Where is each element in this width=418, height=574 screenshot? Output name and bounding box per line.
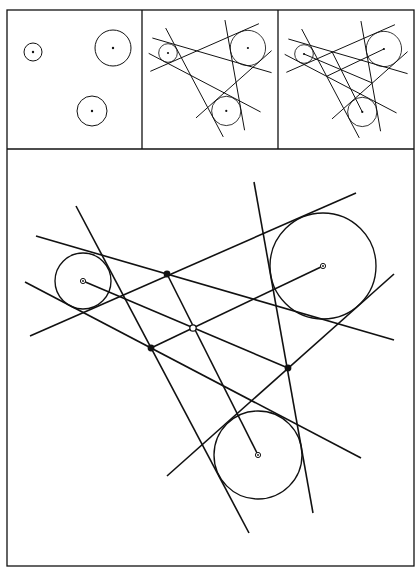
center-dot (303, 53, 305, 55)
point-a (164, 271, 171, 278)
center-dot (32, 51, 34, 53)
tangent-line-3 (285, 54, 397, 113)
point-c (285, 365, 292, 372)
panel-tangents (149, 20, 272, 137)
tangent-line-3 (25, 282, 361, 458)
tangent-line-4 (76, 206, 249, 533)
center-dot (167, 52, 169, 54)
tangent-line-2 (152, 38, 271, 73)
center-dot (257, 454, 259, 456)
center-dot (225, 110, 227, 112)
center-dot (322, 265, 324, 267)
open-point (190, 325, 196, 331)
center-dot (82, 280, 84, 282)
point-b (148, 345, 155, 352)
center-dot (91, 110, 93, 112)
tangent-line-4 (302, 29, 360, 138)
tangent-line-2 (288, 39, 407, 74)
center-dot (112, 47, 114, 49)
tangent-line-2 (36, 236, 394, 340)
tangent-line-4 (166, 28, 224, 137)
panel-circles-only (24, 30, 131, 126)
connector-right-center-to-b (151, 266, 323, 348)
center-dot (361, 111, 363, 113)
connector-left-center-to-c (304, 54, 372, 83)
panel-tangents-connectors (285, 21, 408, 138)
tangent-line-3 (149, 53, 261, 112)
connector-left-center-to-c (83, 281, 288, 368)
geometry-figure (0, 0, 418, 574)
main-figure (25, 182, 394, 533)
center-dot (247, 47, 249, 49)
diagram-canvas (0, 0, 418, 574)
connector-bottom-center-to-a (167, 274, 258, 455)
center-dot (383, 48, 385, 50)
